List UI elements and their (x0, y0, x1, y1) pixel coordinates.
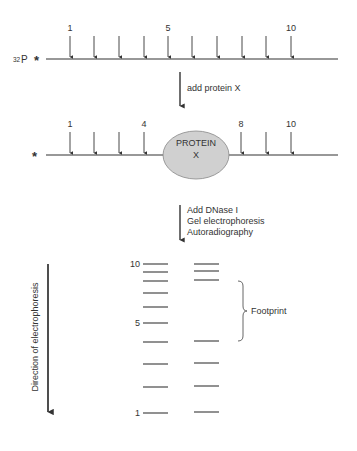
radiolabel-marker-icon: * (32, 149, 38, 164)
site-number-1: 1 (67, 23, 72, 33)
step2-line-2: Gel electrophoresis (187, 216, 265, 226)
protein-site-x-icon: X (193, 150, 199, 160)
step2-line-3: Autoradiography (187, 227, 254, 237)
site-number-10: 10 (286, 119, 296, 129)
step1: add protein X (180, 72, 241, 106)
isotope-element-label: P (21, 54, 28, 65)
cut-site-arrows (70, 36, 291, 57)
site-number-4: 4 (141, 119, 146, 129)
gel-lane-protein (194, 264, 219, 412)
stage2-dna: * PROTEIN X 1 4 8 10 (32, 119, 338, 179)
site-number-5: 5 (165, 23, 170, 33)
site-number-1: 1 (67, 119, 72, 129)
step1-label: add protein X (187, 83, 241, 93)
radiolabel-marker-icon: * (34, 53, 40, 68)
protein-label: PROTEIN (176, 138, 216, 148)
stage1-dna: 32 P * 1 5 10 (13, 23, 338, 68)
site-number-8: 8 (238, 119, 243, 129)
footprint-brace-icon (238, 281, 247, 341)
isotope-mass-label: 32 (13, 56, 21, 63)
step2-line-1: Add DNase I (187, 205, 238, 215)
step2: Add DNase I Gel electrophoresis Autoradi… (180, 205, 265, 240)
band-number-10: 10 (130, 259, 140, 269)
gel: Direction of electrophoresis 10 5 1 (30, 259, 287, 418)
electrophoresis-direction-label: Direction of electrophoresis (30, 282, 40, 392)
gel-lane-control (143, 264, 168, 413)
band-number-5: 5 (135, 318, 140, 328)
band-number-1: 1 (135, 408, 140, 418)
footprint-label: Footprint (251, 306, 287, 316)
footprinting-diagram: 32 P * 1 5 10 add protein X * PROTEIN X (0, 0, 357, 451)
site-number-10: 10 (286, 23, 296, 33)
